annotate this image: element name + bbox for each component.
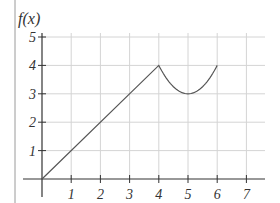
- x-tick-label: 4: [155, 187, 162, 202]
- x-tick-label: 1: [68, 187, 75, 202]
- x-tick-label: 5: [185, 187, 192, 202]
- y-tick-label: 4: [29, 58, 36, 73]
- x-tick-label: 7: [243, 187, 251, 202]
- function-graph: 123456712345 f(x): [0, 0, 280, 203]
- ticks: [38, 37, 246, 183]
- x-tick-label: 3: [125, 187, 133, 202]
- axes: [23, 33, 265, 197]
- y-tick-label: 1: [29, 144, 36, 159]
- x-tick-label: 6: [214, 187, 221, 202]
- x-tick-label: 2: [97, 187, 104, 202]
- y-axis-label: f(x): [18, 10, 40, 28]
- y-tick-label: 3: [28, 87, 36, 102]
- y-tick-label: 5: [29, 30, 36, 45]
- y-tick-label: 2: [29, 115, 36, 130]
- grid: [42, 33, 265, 179]
